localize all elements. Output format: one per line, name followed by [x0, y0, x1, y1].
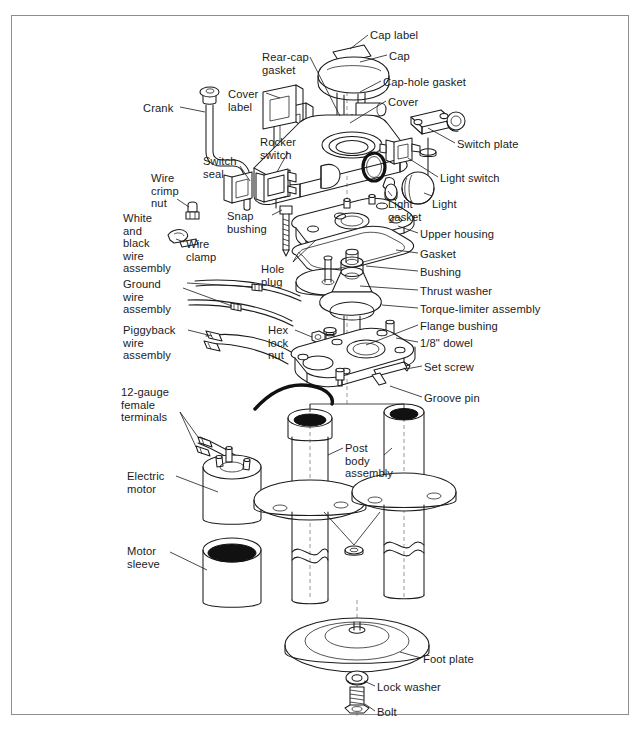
- light-switch-part: [380, 138, 420, 164]
- main-power-cable: [255, 385, 332, 409]
- callout-label-snap-bushing: Snap bushing: [227, 210, 267, 235]
- callout-label-piggyback-wire: Piggyback wire assembly: [123, 324, 176, 362]
- callout-label-cap-hole-gasket: Cap-hole gasket: [383, 76, 466, 89]
- callout-label-thrust-washer: Thrust washer: [420, 285, 492, 298]
- callout-label-white-black-wire: White and black wire assembly: [123, 212, 171, 275]
- callout-label-twelve-gauge-terminals: 12-gauge female terminals: [121, 386, 169, 424]
- callout-label-crank: Crank: [143, 102, 173, 115]
- callout-label-lock-washer: Lock washer: [377, 681, 441, 694]
- callout-label-hex-lock-nut: Hex lock nut: [268, 324, 288, 362]
- callout-label-flange-bushing: Flange bushing: [420, 320, 498, 333]
- callout-label-light: Light: [432, 198, 457, 211]
- callout-label-torque-limiter: Torque-limiter assembly: [420, 303, 540, 316]
- callout-label-bushing: Bushing: [420, 266, 461, 279]
- motor-sleeve-part: [203, 538, 261, 607]
- callout-label-electric-motor: Electric motor: [127, 470, 164, 495]
- lower-housing-part: [291, 328, 415, 386]
- callout-label-rocker-switch: Rocker switch: [260, 136, 296, 161]
- callout-label-gasket: Gasket: [420, 248, 456, 261]
- electric-motor-part: [203, 447, 261, 525]
- lock-washer-part: [346, 671, 368, 685]
- callout-label-cap: Cap: [389, 50, 410, 63]
- callout-label-groove-pin: Groove pin: [424, 392, 480, 405]
- callout-label-hole-plug: Hole plug: [261, 263, 284, 288]
- callout-label-dowel: 1/8" dowel: [420, 337, 473, 350]
- callout-label-wire-crimp-nut: Wire crimp nut: [151, 172, 179, 210]
- callout-label-foot-plate: Foot plate: [423, 653, 474, 666]
- callout-label-ground-wire: Ground wire assembly: [123, 278, 171, 316]
- callout-label-switch-seal: Switch seal: [203, 155, 237, 180]
- callout-label-motor-sleeve: Motor sleeve: [127, 545, 160, 570]
- callout-label-bolt: Bolt: [377, 706, 397, 719]
- exploded-assembly-illustration: .s { fill:none; stroke:#1b1b1b; stroke-w…: [0, 0, 641, 730]
- post-washer-part: [345, 546, 363, 555]
- groove-pin-part: [336, 368, 344, 386]
- foot-plate-part: [285, 618, 429, 672]
- ground-wire-assembly-part: [188, 300, 293, 326]
- callout-label-switch-plate: Switch plate: [457, 138, 519, 151]
- snap-bushing-part: [280, 206, 292, 256]
- callout-label-light-switch: Light switch: [440, 172, 500, 185]
- bolt-part: [345, 687, 369, 713]
- callout-label-set-screw: Set screw: [424, 361, 474, 374]
- callout-label-rear-cap-gasket: Rear-cap gasket: [262, 51, 309, 76]
- callout-label-cover-label: Cover label: [228, 88, 258, 113]
- callout-label-upper-housing: Upper housing: [420, 228, 494, 241]
- callout-label-cover: Cover: [388, 96, 418, 109]
- callout-label-cap-label: Cap label: [370, 29, 418, 42]
- callout-label-wire-clamp: Wire clamp: [186, 238, 216, 263]
- wire-crimp-nut-part: [186, 202, 199, 219]
- diagram-page: .s { fill:none; stroke:#1b1b1b; stroke-w…: [0, 0, 641, 730]
- callout-label-light-gasket: Light gasket: [388, 198, 422, 223]
- callout-label-post-body-assembly: Post body assembly: [345, 442, 393, 480]
